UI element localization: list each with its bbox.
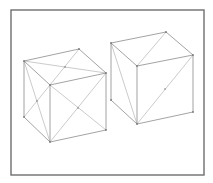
vertex-point [192, 111, 194, 113]
vertex-point [136, 65, 138, 67]
cubes-group [23, 31, 194, 143]
face-center-point [36, 100, 38, 102]
vertex-point [49, 84, 51, 86]
vertex-point [23, 116, 25, 118]
diagram-canvas [0, 0, 213, 183]
vertex-point [49, 141, 51, 143]
right-cube [110, 31, 194, 125]
vertex-point [136, 123, 138, 125]
left-cube [23, 48, 107, 143]
face-center-point [164, 88, 166, 90]
vertex-point [110, 42, 112, 44]
vertex-point [110, 99, 112, 101]
face-center-point [64, 66, 66, 68]
vertex-point [78, 48, 80, 50]
vertex-point [23, 60, 25, 62]
vertex-point [165, 31, 167, 33]
frame-border [11, 10, 204, 175]
face-center-point [77, 107, 79, 109]
vertex-point [105, 129, 107, 131]
cube-edge [166, 32, 193, 55]
vertex-point [105, 72, 107, 74]
vertex-point [192, 54, 194, 56]
